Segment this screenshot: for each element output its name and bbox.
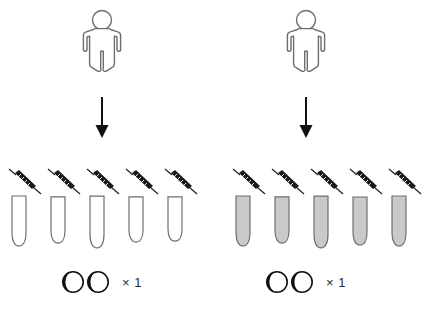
arrow-down-icon bbox=[90, 97, 114, 139]
arrow-down-icon bbox=[294, 97, 318, 139]
sample-item bbox=[122, 165, 162, 250]
test-tube-icon bbox=[313, 195, 329, 249]
sample-group-right: × 1 bbox=[204, 0, 407, 311]
marker-multiplier-label: × 1 bbox=[122, 276, 142, 289]
pipette-icon bbox=[307, 165, 347, 195]
sample-item bbox=[44, 165, 84, 250]
sample-item bbox=[307, 165, 347, 250]
pipette-icon bbox=[385, 165, 425, 195]
test-tube-icon bbox=[11, 195, 27, 247]
eye-pair-icon bbox=[61, 270, 110, 294]
sample-item bbox=[346, 165, 386, 250]
sample-row-left bbox=[0, 165, 203, 250]
marker-row-left: × 1 bbox=[0, 266, 203, 298]
test-tube-icon bbox=[235, 195, 251, 247]
pipette-icon bbox=[44, 165, 84, 195]
test-tube-icon bbox=[352, 196, 368, 246]
sample-item bbox=[385, 165, 425, 250]
sample-item bbox=[229, 165, 269, 250]
pipette-icon bbox=[229, 165, 269, 195]
pipette-icon bbox=[268, 165, 308, 195]
person-icon bbox=[74, 8, 130, 88]
pipette-icon bbox=[83, 165, 123, 195]
test-tube-icon bbox=[89, 195, 105, 249]
test-tube-icon bbox=[167, 196, 183, 242]
sample-item bbox=[83, 165, 123, 250]
sample-row-right bbox=[204, 165, 407, 250]
test-tube-icon bbox=[50, 196, 66, 244]
pipette-icon bbox=[346, 165, 386, 195]
eye-pair-icon bbox=[265, 270, 314, 294]
test-tube-icon bbox=[391, 195, 407, 247]
marker-multiplier-label: × 1 bbox=[326, 276, 346, 289]
sample-item bbox=[268, 165, 308, 250]
sample-item bbox=[161, 165, 201, 250]
test-tube-icon bbox=[274, 196, 290, 244]
marker-row-right: × 1 bbox=[204, 266, 407, 298]
pipette-icon bbox=[161, 165, 201, 195]
person-icon bbox=[278, 8, 334, 88]
sample-item bbox=[5, 165, 45, 250]
pipette-icon bbox=[5, 165, 45, 195]
sample-group-left: × 1 bbox=[0, 0, 203, 311]
pipette-icon bbox=[122, 165, 162, 195]
test-tube-icon bbox=[128, 196, 144, 243]
